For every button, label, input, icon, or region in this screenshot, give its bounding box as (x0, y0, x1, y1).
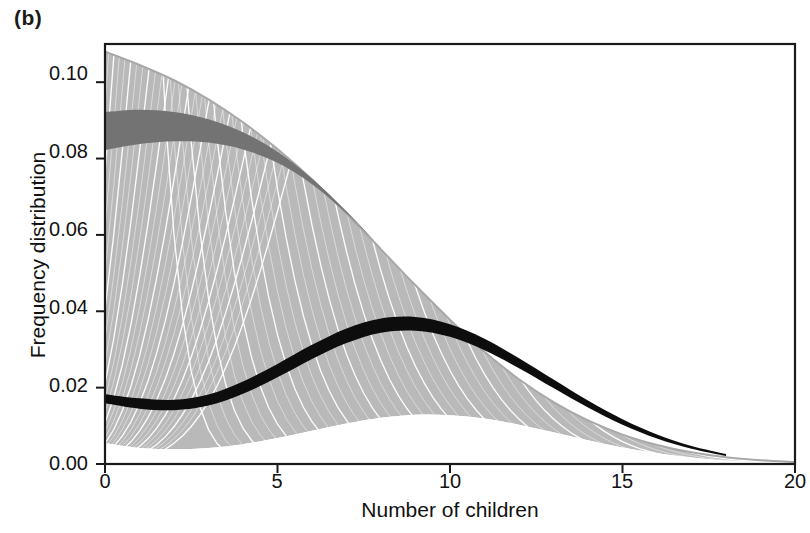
x-tick-labels: 0 5 10 15 20 (0, 0, 810, 533)
x-tick-label: 0 (75, 470, 135, 493)
x-tick-label: 10 (420, 470, 480, 493)
x-tick-label: 15 (592, 470, 652, 493)
x-tick-label: 20 (765, 470, 810, 493)
x-tick-label: 5 (247, 470, 307, 493)
figure-panel-b: (b) Frequency distribution Number of chi… (0, 0, 810, 533)
